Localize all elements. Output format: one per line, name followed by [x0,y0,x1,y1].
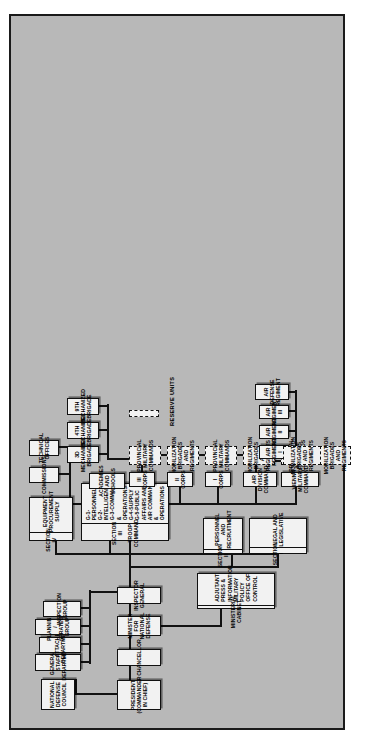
connector-stub-attache [81,643,90,645]
connector-stub-planning [81,625,90,627]
i-mob-line3: REGIMENTS [341,440,347,471]
node-section-1-header: SECTION I [250,547,306,560]
node-minister-for-national-defense[interactable]: MINISTER FOR NATIONAL DEFENSE [117,616,161,636]
node-section-1-body: LEGAL AND LEGISLATIVE [272,512,284,546]
node-inspection-group-line1: INSPECTION GROUP [56,593,68,625]
node-commissions[interactable]: COMMISSIONS [29,467,59,483]
node-president[interactable]: PRESIDENT (COMMANDER IN CHIEF) [117,680,161,710]
node-section-3[interactable]: SECTION III TROOP COMMAND G-1-PERSONNEL … [81,483,169,541]
node-president-line2: (COMMANDER IN CHIEF) [136,677,148,714]
node-minister-line1: MINISTER FOR [127,613,139,638]
node-academies-line2: SCHOOLS [110,468,116,494]
connector-stub-ii-corps [179,487,181,505]
node-section-4[interactable]: SECTION IV EQUIPMENT PROCUREMENT SUPPLY [29,497,73,541]
i-mob-line2: BRIGADES AND [329,442,341,470]
connector-stub-brigade-9th [99,405,108,407]
connector-staff-bus [89,590,91,664]
node-air-defense-line2: REGIMENT [275,378,281,406]
node-chancellor[interactable]: CHANCELLOR [117,649,161,666]
node-brigade-3d[interactable]: 3D MECHANIZED BRIGADE [67,446,99,463]
node-brigade-4th[interactable]: 4TH MECHANIZED BRIGADE [67,422,99,439]
node-air-defense-line1: AIR DEFENSE [263,380,275,405]
node-iii-corps-mobilization-brigades-regiments[interactable]: MOBILIZATION BRIGADES AND REGIMENTS [167,446,199,465]
section-3-item-g5-cont: AIR COMMAND & OPERATIONS [147,482,166,521]
node-i-corps-mobilization-brigades-regiments[interactable]: MOBILIZATION BRIGADES AND REGIMENTS [319,446,351,465]
node-vienna-military-command[interactable]: VIENNA MILITARY COMMAND [281,472,319,487]
connector-stub-brigade-4th [99,429,108,431]
cabinet-item-office-of-control: OFFICE OF CONTROL [245,565,257,602]
connector-president-ndc-vertical [75,693,117,695]
node-iii-corps-line1: III CORPS [136,470,148,489]
node-iii-corps[interactable]: III CORPS [129,472,155,487]
node-technical-offices-line2: OFFICES [44,437,50,460]
node-ministerial-cabinet[interactable]: MINISTERIAL CABINET ADJUTANT PRESS & INF… [197,573,275,609]
node-brigade-3d-line3: BRIGADE [86,442,92,466]
cabinet-item-press-information: PRESS & INFORMATION [220,565,232,602]
iii-mob-line3: REGIMENTS [189,440,195,471]
connector-stub-general-staff [81,661,90,663]
node-air-division-line2: COMMAND [263,466,269,494]
node-brigade-9th-line3: BRIGADE [86,394,92,418]
node-vienna-mobilization-brigades-regiments[interactable]: MOBILIZATION BRIGADES AND REGIMENTS [283,446,321,465]
node-minister-line2: NATIONAL DEFENSE [139,613,151,640]
node-air-regiment-3[interactable]: AIR REGIMENT III [259,405,289,419]
node-iii-corps-provincial-military-commands[interactable]: PROVINCIAL MILITARY COMMANDS [129,446,161,465]
node-i-corps-line1: I CORPS [212,470,224,489]
connector-ndc-horizontal [75,679,77,695]
ii-provincial-line3: COMMANDS [224,440,230,471]
node-section-2-header: SECTION II [204,549,242,562]
vienna-mob-line2: BRIGADES AND [296,442,308,470]
node-air-division-command[interactable]: AIR DIVISION COMMAND [243,472,277,487]
node-academies-line1: ACADEMIES AND [98,465,110,496]
node-ii-corps[interactable]: II CORPS [167,472,193,487]
node-air-defense-regiment[interactable]: AIR DEFENSE REGIMENT [255,384,289,400]
node-national-defense-council[interactable]: NATIONAL DEFENSE COUNCIL [41,679,75,710]
node-i-corps[interactable]: I CORPS [205,472,231,487]
node-brigade-4th-line3: BRIGADE [86,418,92,442]
node-academies-and-schools[interactable]: ACADEMIES AND SCHOOLS [89,473,125,489]
vienna-mob-line3: REGIMENTS [308,440,314,471]
node-national-defense-council-line2: DEFENSE COUNCIL [55,681,67,708]
chart-sheet: NATIONAL DEFENSE COUNCIL PRESIDENT (COMM… [0,0,356,742]
node-ministerial-cabinet-header: MINISTERIAL CABINET [198,605,274,617]
legend-label-reserve-units: RESERVE UNITS [169,377,175,426]
node-section-2[interactable]: SECTION II PERSONNEL AND RECRUITMENT [203,518,243,554]
iii-mob-line2: BRIGADES AND [177,442,189,470]
node-section-4-header: SECTION IV [30,532,72,547]
connector-sections-riser [55,553,277,555]
node-inspector-general[interactable]: INSPECTOR GENERAL [117,587,161,604]
connector-brigades-bus [107,404,109,460]
node-section-1[interactable]: SECTION I LEGAL AND LEGISLATIVE [249,518,307,554]
chart-frame: NATIONAL DEFENSE COUNCIL PRESIDENT (COMM… [9,14,345,730]
node-air-regiment-2[interactable]: AIR REGIMENT II [259,425,289,439]
node-ii-corps-provincial-military-commands[interactable]: PROVINCIAL MILITARY COMMANDS [205,446,237,465]
connector-minister-cabinet-vertical [154,625,222,627]
node-technical-offices[interactable]: TECHNICAL OFFICES [29,440,59,456]
node-section-3-subheader: TROOP COMMAND [127,519,139,547]
node-section-2-body: PERSONNEL AND RECRUITMENT [214,510,233,548]
node-air-division-line1: AIR DIVISION [251,468,263,491]
cabinet-item-military-policy: MILITARY POLICY [233,565,245,602]
node-inspection-group[interactable]: INSPECTION GROUP [43,601,81,617]
node-brigade-9th[interactable]: 9TH MECHANIZED BRIGADE [67,398,99,415]
chart-rotation-wrapper: NATIONAL DEFENSE COUNCIL PRESIDENT (COMM… [0,0,356,742]
node-inspector-general-line1: INSPECTOR GENERAL [133,580,145,611]
node-ii-corps-line1: II CORPS [174,470,186,489]
node-section-4-body: EQUIPMENT PROCUREMENT SUPPLY [42,491,61,532]
legend-swatch-reserve-units [129,410,159,417]
iii-provincial-line3: COMMANDS [148,440,154,471]
connector-stub-i-corps [217,487,219,505]
node-chancellor-line1: CHANCELLOR [136,639,142,676]
connector-stub-brigade-3d [99,453,108,455]
connector-stub-inspection [81,607,90,609]
node-section-3-header: SECTION III TROOP COMMAND [82,523,168,542]
